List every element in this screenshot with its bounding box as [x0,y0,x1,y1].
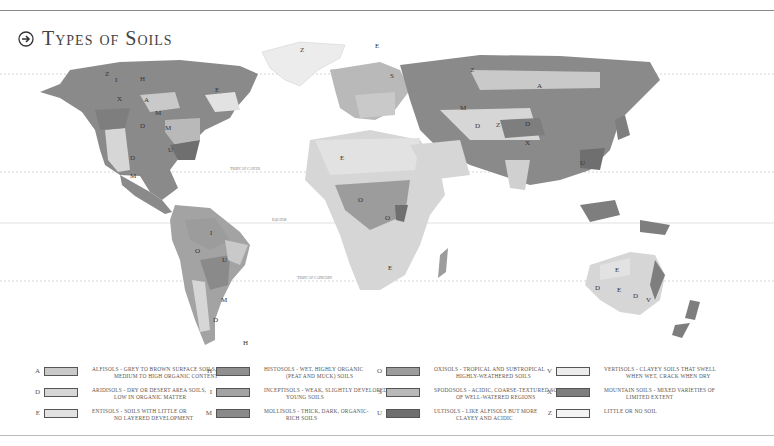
svg-text:X: X [117,95,122,103]
svg-text:Z: Z [300,46,304,54]
legend-code: D [30,387,40,397]
legend-description: Ultisols - like alfisols but moreclayey … [434,408,538,421]
svg-text:D: D [633,292,638,300]
legend-description: Vertisols - clayey soils that swellwhen … [604,366,716,379]
legend-code: O [372,366,382,376]
svg-text:E: E [375,42,379,50]
svg-text:E: E [340,154,344,162]
svg-text:X: X [525,139,530,147]
legend-swatch [216,409,250,418]
svg-text:D: D [525,120,530,128]
legend-item-entisols: E Entisols - soils with little orno laye… [30,408,218,429]
legend-description: Entisols - soils with little orno layere… [92,408,193,421]
legend-line2: when wet, crack when dry [604,373,716,380]
svg-text:D: D [140,122,145,130]
svg-text:Z: Z [470,66,474,74]
tropic-of-cancer-label: Tropic of Cancer [230,166,260,171]
svg-text:D: D [130,154,135,162]
svg-text:A: A [144,96,149,104]
new-zealand [685,300,700,320]
svg-text:S: S [390,72,394,80]
svg-text:E: E [215,86,219,94]
legend-line1: Alfisols - grey to brown surface soils, [92,366,217,372]
legend-code: V [542,366,552,376]
svg-text:O: O [358,196,363,204]
legend-description: Aridisols - dry or desert area soils,low… [92,387,206,400]
legend-item-vertisols: V Vertisols - clayey soils that swellwhe… [542,366,716,387]
legend-code: Z [542,408,552,418]
legend-code: I [202,387,212,397]
legend-line1: Entisols - soils with little or [92,408,187,414]
svg-text:H: H [140,75,145,83]
southeast-asia [580,200,620,222]
map-canvas: Arctic Circle Tropic of Cancer Equator T… [0,40,774,360]
legend: A Alfisols - grey to brown surface soils… [0,366,774,430]
svg-text:Z: Z [105,70,109,78]
legend-description: Inceptisols - weak, slightly developedyo… [264,387,387,400]
svg-text:M: M [221,296,228,304]
legend-item-oxisols: O Oxisols - tropical and subtropicalhigh… [372,366,566,387]
legend-description: Oxisols - tropical and subtropicalhighly… [434,366,545,379]
legend-item-little-or-no-soil: Z Little or No Soil [542,408,716,429]
legend-line1: Inceptisols - weak, slightly developed [264,387,387,393]
legend-line1: Ultisols - like alfisols but more [434,408,538,414]
svg-text:E: E [617,286,621,294]
legend-swatch [386,388,420,397]
svg-text:H: H [243,339,248,347]
legend-code: E [30,408,40,418]
legend-item-inceptisols: I Inceptisols - weak, slightly developed… [202,387,387,408]
legend-line2: young soils [264,394,387,401]
legend-line2: limited extent [604,394,715,401]
legend-line1: Vertisols - clayey soils that swell [604,366,716,372]
legend-code: H [202,366,212,376]
legend-line1: Little or No Soil [604,408,657,414]
legend-item-mountain-soils: X Mountain Soils - mixed varieties oflim… [542,387,716,408]
legend-line2: medium to high organic content [92,373,218,380]
legend-column-4: V Vertisols - clayey soils that swellwhe… [542,366,716,429]
legend-item-alfisols: A Alfisols - grey to brown surface soils… [30,366,218,387]
legend-swatch [386,409,420,418]
legend-swatch [556,388,590,397]
legend-description: Mollisols - thick, dark, organic-rich so… [264,408,369,421]
bottom-rule [0,435,774,436]
legend-swatch [216,367,250,376]
svg-text:O: O [195,247,200,255]
legend-item-ultisols: U Ultisols - like alfisols but moreclaye… [372,408,566,429]
svg-text:M: M [460,104,467,112]
svg-text:M: M [130,172,137,180]
svg-text:M: M [165,124,172,132]
legend-code: U [372,408,382,418]
legend-code: X [542,387,552,397]
svg-text:E: E [615,266,619,274]
legend-swatch [216,388,250,397]
svg-text:M: M [155,109,162,117]
legend-line2: rich soils [264,415,369,422]
legend-swatch [556,367,590,376]
legend-line1: Histosols - wet, highly organic [264,366,363,372]
legend-description: Alfisols - grey to brown surface soils,m… [92,366,218,379]
svg-text:V: V [646,296,651,304]
legend-item-aridisols: D Aridisols - dry or desert area soils,l… [30,387,218,408]
legend-description: Mountain Soils - mixed varieties oflimit… [604,387,715,400]
legend-column-1: A Alfisols - grey to brown surface soils… [30,366,218,429]
legend-item-histosols: H Histosols - wet, highly organic(peat a… [202,366,387,387]
legend-line2: no layered development [92,415,193,422]
svg-text:D: D [595,284,600,292]
equator-label: Equator [272,217,287,222]
legend-code: M [202,408,212,418]
legend-code: A [30,366,40,376]
legend-description: Histosols - wet, highly organic(peat and… [264,366,363,379]
svg-text:D: D [213,316,218,324]
svg-text:U: U [168,146,173,154]
legend-swatch [44,409,78,418]
legend-line1: Mountain Soils - mixed varieties of [604,387,715,393]
legend-line2: highly-weathered soils [434,373,545,380]
legend-line1: Mollisols - thick, dark, organic- [264,408,369,414]
legend-line2: (peat and muck) soils [264,373,363,380]
legend-swatch [386,367,420,376]
tropic-of-capricorn-label: Tropic of Capricorn [297,275,333,280]
svg-text:Z: Z [496,121,500,129]
north-america [40,60,258,200]
legend-code: S [372,387,382,397]
svg-text:D: D [475,122,480,130]
